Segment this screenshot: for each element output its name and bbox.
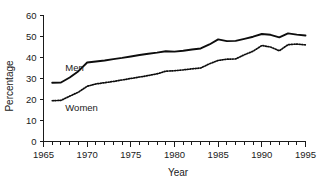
y-tick-label: 10: [26, 115, 37, 126]
y-tick-label: 20: [26, 94, 37, 105]
y-tick-label: 50: [26, 31, 37, 42]
data-series-group: [52, 33, 305, 100]
x-tick-label: 1975: [120, 149, 141, 160]
series-label-men: Men: [65, 62, 83, 73]
x-tick-label: 1970: [77, 149, 98, 160]
y-axis-tick-labels: 0102030405060: [26, 10, 37, 147]
chart-canvas: 0102030405060 19651970197519801985199019…: [0, 0, 322, 182]
series-annotations: MenWomen: [65, 62, 98, 113]
x-tick-label: 1980: [164, 149, 185, 160]
series-line-men: [52, 33, 305, 82]
y-tick-label: 30: [26, 73, 37, 84]
y-tick-label: 40: [26, 52, 37, 63]
x-tick-label: 1985: [208, 149, 229, 160]
series-line-women: [52, 44, 305, 101]
x-tick-label: 1995: [295, 149, 316, 160]
y-tick-label: 0: [31, 136, 36, 147]
x-tick-label: 1990: [251, 149, 272, 160]
x-axis-tick-labels: 1965197019751980198519901995: [33, 149, 316, 160]
x-axis-title: Year: [168, 167, 189, 178]
y-axis-ticks: [40, 16, 44, 142]
series-label-women: Women: [65, 102, 98, 113]
x-axis-major-ticks: [44, 142, 306, 147]
y-tick-label: 60: [26, 10, 37, 21]
y-axis-title: Percentage: [4, 60, 15, 112]
x-tick-label: 1965: [33, 149, 54, 160]
line-chart: 0102030405060 19651970197519801985199019…: [0, 0, 322, 182]
